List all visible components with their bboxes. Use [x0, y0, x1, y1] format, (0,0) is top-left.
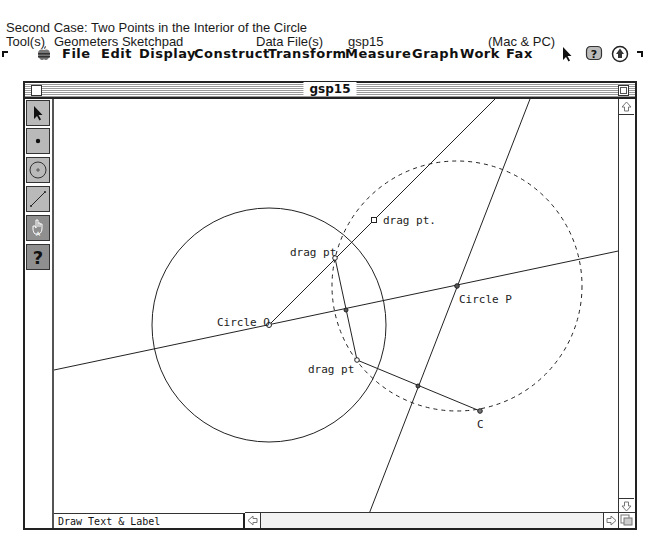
sketch-window: gsp15 A ?: [23, 81, 637, 530]
status-message: Draw Text & Label: [54, 513, 245, 528]
point-tool[interactable]: [26, 128, 50, 154]
circle-icon: [28, 160, 48, 180]
line-o-drag[interactable]: [269, 99, 495, 325]
arrow-icon: [31, 104, 45, 122]
text-tool[interactable]: A: [26, 215, 50, 241]
line-through-p[interactable]: [369, 99, 530, 514]
menu-bar: File Edit Display Construct Transform Me…: [0, 44, 658, 64]
label-circle-o[interactable]: Circle O: [217, 316, 270, 329]
point-p[interactable]: [455, 284, 460, 289]
selection-arrow-tool[interactable]: [26, 100, 50, 126]
menu-fax[interactable]: Fax: [506, 46, 533, 61]
title-bar[interactable]: gsp15: [25, 83, 635, 99]
vertical-scrollbar[interactable]: [618, 99, 635, 514]
question-icon: ?: [33, 247, 43, 268]
menubar-corner-left: [2, 51, 8, 57]
help-tool[interactable]: ?: [26, 244, 50, 270]
sketch-canvas[interactable]: Circle O Circle P drag pt drag pt. drag …: [54, 99, 622, 514]
scroll-up-arrow-icon[interactable]: [619, 99, 634, 115]
intersection-point-2[interactable]: [416, 384, 420, 388]
svg-text:?: ?: [591, 48, 597, 61]
menu-transform[interactable]: Transform: [268, 46, 347, 61]
label-point-c[interactable]: C: [477, 418, 484, 431]
point-drag-2[interactable]: [372, 218, 377, 223]
menu-edit[interactable]: Edit: [101, 46, 132, 61]
apple-icon[interactable]: [37, 45, 51, 65]
menu-construct[interactable]: Construct: [194, 46, 270, 61]
menu-display[interactable]: Display: [139, 46, 196, 61]
point-icon: [33, 136, 43, 146]
segment-tool[interactable]: [26, 186, 50, 212]
scroll-right-arrow-icon[interactable]: [603, 513, 619, 528]
intersection-point-1[interactable]: [344, 308, 348, 312]
help-balloon-icon[interactable]: ?: [585, 45, 603, 67]
zoom-box[interactable]: [618, 85, 629, 96]
construction-drawing[interactable]: Circle O Circle P drag pt drag pt. drag …: [54, 99, 622, 514]
hand-text-icon: A: [29, 218, 47, 238]
horizontal-scrollbar[interactable]: [245, 512, 619, 528]
case-title: Second Case: Two Points in the Interior …: [6, 20, 307, 35]
menu-work[interactable]: Work: [460, 46, 500, 61]
window-title: gsp15: [303, 82, 356, 96]
application-icon[interactable]: [611, 45, 629, 67]
point-c[interactable]: [478, 409, 483, 414]
scroll-left-arrow-icon[interactable]: [245, 513, 261, 528]
menu-graph[interactable]: Graph: [412, 46, 459, 61]
menubar-corner-right: [637, 51, 643, 57]
line-op[interactable]: [54, 250, 622, 370]
point-drag-3[interactable]: [355, 358, 360, 363]
label-circle-p[interactable]: Circle P: [459, 293, 512, 306]
arrow-cursor-icon[interactable]: [561, 46, 573, 66]
grow-box-icon: [619, 513, 634, 527]
close-box[interactable]: [31, 85, 42, 96]
label-drag-pt-2[interactable]: drag pt.: [383, 214, 436, 227]
label-drag-pt-3[interactable]: drag pt: [308, 363, 354, 376]
resize-grow-box[interactable]: [618, 512, 635, 528]
menu-measure[interactable]: Measure: [345, 46, 411, 61]
circle-tool[interactable]: [26, 157, 50, 183]
menu-file[interactable]: File: [62, 46, 91, 61]
segment-icon: [28, 189, 48, 209]
tool-palette: A ?: [25, 99, 54, 528]
label-drag-pt-1[interactable]: drag pt: [290, 246, 336, 259]
